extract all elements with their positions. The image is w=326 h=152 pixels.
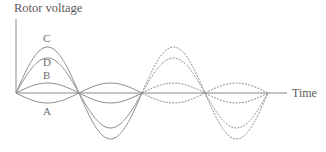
y-axis-label: Rotor voltage	[14, 2, 82, 15]
curve-label-a: A	[43, 106, 51, 117]
curve-label-d: D	[43, 57, 51, 68]
rotor-voltage-diagram: Rotor voltage Time C D B A	[0, 0, 326, 152]
x-axis-label: Time	[292, 87, 317, 99]
curve-label-b: B	[43, 70, 50, 81]
curve-label-c: C	[43, 33, 50, 44]
